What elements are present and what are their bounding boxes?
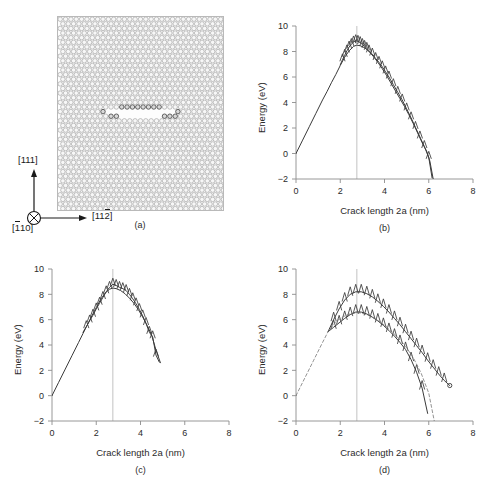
lattice-atom bbox=[178, 49, 183, 54]
lattice-atom bbox=[160, 193, 165, 198]
lattice-atom bbox=[200, 31, 205, 35]
lattice-atom bbox=[61, 31, 65, 35]
lattice-atom bbox=[181, 35, 186, 40]
lattice-atom bbox=[202, 91, 207, 96]
lattice-atom bbox=[197, 109, 202, 114]
lattice-atom bbox=[95, 63, 100, 68]
lattice-atom bbox=[61, 49, 65, 54]
lattice-atom bbox=[202, 156, 207, 161]
lattice-atom bbox=[154, 183, 159, 188]
triad-label-112-pre: [11 bbox=[92, 210, 105, 221]
lattice-atom bbox=[162, 31, 167, 35]
lattice-atom bbox=[173, 197, 178, 202]
lattice-atom bbox=[178, 132, 183, 137]
lattice-atom bbox=[85, 137, 90, 142]
lattice-atom bbox=[141, 95, 146, 100]
lattice-atom bbox=[101, 109, 106, 114]
lattice-atom bbox=[138, 100, 143, 105]
lattice-atom bbox=[162, 22, 167, 27]
lattice-atom bbox=[205, 160, 210, 165]
lattice-atom bbox=[130, 132, 135, 137]
lattice-atom bbox=[58, 35, 63, 40]
lattice-atom bbox=[95, 45, 100, 50]
y-tick-label: 4 bbox=[39, 340, 44, 350]
lattice-atom bbox=[87, 142, 92, 147]
lattice-atom bbox=[90, 17, 95, 22]
lattice-atom bbox=[136, 188, 141, 193]
lattice-atom bbox=[69, 35, 74, 40]
x-tick-label: 8 bbox=[470, 186, 475, 196]
lattice-atom bbox=[205, 95, 210, 100]
lattice-atom bbox=[218, 165, 223, 170]
lattice-atom bbox=[74, 146, 79, 151]
lattice-atom bbox=[154, 72, 159, 77]
lattice-atom bbox=[138, 165, 143, 170]
lattice-atom bbox=[114, 123, 119, 128]
lattice-atom bbox=[181, 183, 186, 188]
lattice-atom bbox=[213, 156, 218, 161]
lattice-atom bbox=[149, 183, 154, 188]
x-axis-label-b: Crack length 2a (nm) bbox=[296, 205, 473, 216]
lattice-atom bbox=[58, 26, 63, 31]
lattice-atom bbox=[58, 54, 63, 59]
lattice-atom bbox=[170, 45, 175, 50]
lattice-atom bbox=[213, 82, 218, 87]
lattice-atom bbox=[122, 63, 127, 68]
lattice-atom bbox=[160, 119, 165, 124]
lattice-atom bbox=[218, 91, 223, 96]
lattice-atom bbox=[133, 165, 138, 170]
lattice-atom bbox=[128, 35, 133, 40]
lattice-atom bbox=[218, 72, 223, 77]
lattice-atom bbox=[165, 183, 170, 188]
lattice-atom bbox=[95, 35, 100, 40]
lattice-atom bbox=[189, 188, 194, 193]
lattice-atom bbox=[109, 95, 114, 100]
lattice-atom bbox=[93, 31, 98, 35]
lattice-atom bbox=[111, 137, 116, 142]
lattice-atom bbox=[66, 114, 71, 119]
lattice-atom bbox=[74, 91, 79, 96]
lattice-atom bbox=[146, 197, 151, 202]
lattice-atom bbox=[152, 49, 157, 54]
lattice-atom bbox=[66, 49, 71, 54]
lattice-atom bbox=[117, 119, 122, 124]
lattice-atom bbox=[157, 206, 162, 211]
lattice-atom bbox=[173, 169, 178, 174]
lattice-atom bbox=[160, 137, 165, 142]
lattice-atom bbox=[71, 86, 76, 91]
lattice-atom bbox=[200, 95, 205, 100]
lattice-atom bbox=[93, 95, 98, 100]
lattice-atom bbox=[61, 114, 65, 119]
lattice-atom bbox=[208, 165, 213, 170]
lattice-atom bbox=[101, 72, 106, 77]
lattice-atom bbox=[93, 40, 98, 45]
lattice-atom bbox=[210, 169, 215, 174]
lattice-atom bbox=[146, 68, 151, 73]
lattice-atom bbox=[144, 119, 149, 124]
lattice-atom bbox=[117, 35, 122, 40]
lattice-atom bbox=[125, 31, 130, 35]
lattice-atom bbox=[138, 17, 143, 22]
lattice-atom bbox=[152, 179, 157, 184]
series-path-c-0 bbox=[52, 288, 160, 396]
lattice-atom bbox=[141, 59, 146, 64]
lattice-atom bbox=[66, 77, 71, 82]
lattice-atom bbox=[160, 165, 165, 170]
lattice-atom bbox=[130, 31, 135, 35]
lattice-atom bbox=[138, 63, 143, 68]
lattice-atom bbox=[194, 151, 199, 156]
lattice-atom bbox=[210, 151, 215, 156]
lattice-atom bbox=[133, 63, 138, 68]
lattice-atom bbox=[200, 151, 205, 156]
lattice-atom bbox=[216, 188, 221, 193]
lattice-atom bbox=[79, 17, 84, 22]
lattice-atom bbox=[74, 54, 79, 59]
lattice-atom bbox=[111, 72, 116, 77]
lattice-atom bbox=[181, 193, 186, 198]
triad-label-110-overbar-group: 1 bbox=[15, 222, 20, 233]
lattice-atom bbox=[216, 197, 221, 202]
lattice-atom bbox=[106, 63, 111, 68]
lattice-atom bbox=[197, 26, 202, 31]
lattice-atom bbox=[69, 72, 74, 77]
y-axis-label-b: Energy (eV) bbox=[256, 82, 267, 133]
